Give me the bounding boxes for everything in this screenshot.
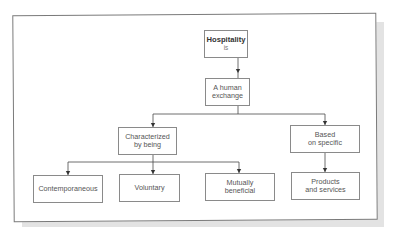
node-label-line2: and services [305, 186, 345, 194]
node-label-line2: by being [134, 141, 161, 149]
node-characterized: Characterized by being [118, 127, 177, 155]
node-contemporaneous: Contemporaneous [33, 175, 103, 203]
node-hospitality: Hospitality is [204, 30, 248, 58]
node-label-line2: beneficial [225, 187, 255, 195]
node-hospitality-subtitle: is [224, 44, 229, 52]
node-label-line1: Contemporaneous [38, 185, 97, 193]
node-mutually-beneficial: Mutually beneficial [205, 173, 275, 201]
node-based-on-specific: Based on specific [290, 125, 360, 153]
node-label-line2: exchange [212, 92, 243, 100]
node-label-line1: Voluntary [135, 184, 165, 192]
node-human-exchange: A human exchange [205, 78, 250, 106]
diagram-canvas: Hospitality is A human exchange Characte… [0, 0, 397, 236]
node-label-line2: on specific [308, 139, 342, 147]
node-products-and-services: Products and services [291, 172, 360, 200]
node-voluntary: Voluntary [119, 174, 180, 202]
node-hospitality-title: Hospitality [207, 36, 246, 44]
